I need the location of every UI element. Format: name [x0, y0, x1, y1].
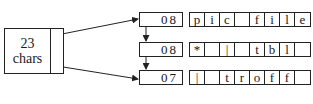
- char-cell: [295, 43, 310, 56]
- char-cell: p: [190, 13, 205, 26]
- char-cell: *: [190, 43, 205, 56]
- char-cell: i: [205, 13, 220, 26]
- char-cell: |: [220, 43, 235, 56]
- char-cell: [205, 43, 220, 56]
- char-cell: t: [250, 43, 265, 56]
- char-cell: [235, 43, 250, 56]
- string-header-box: 23 chars: [4, 28, 64, 74]
- char-cell: |: [190, 71, 205, 84]
- char-cell: o: [250, 71, 265, 84]
- char-cell: [295, 71, 310, 84]
- length-value: 23: [21, 36, 35, 51]
- char-cell: e: [295, 13, 310, 26]
- segment-count-3: 07: [139, 70, 183, 85]
- char-cell: c: [220, 13, 235, 26]
- char-cell: l: [280, 13, 295, 26]
- char-cell: f: [280, 71, 295, 84]
- segment-cells-1: p i c f i l e: [189, 12, 311, 27]
- char-cell: l: [280, 43, 295, 56]
- segment-count-1: 08: [139, 12, 183, 27]
- length-unit: chars: [13, 51, 43, 66]
- char-cell: t: [220, 71, 235, 84]
- char-cell: i: [265, 13, 280, 26]
- length-label: 23 chars: [5, 29, 50, 73]
- char-cell: r: [235, 71, 250, 84]
- char-cell: f: [265, 71, 280, 84]
- char-cell: [235, 13, 250, 26]
- char-cell: [205, 71, 220, 84]
- segment-count-2: 08: [139, 42, 183, 57]
- segment-cells-3: | t r o f f: [189, 70, 311, 85]
- segment-cells-2: * | t b l: [189, 42, 311, 57]
- char-cell: b: [265, 43, 280, 56]
- pointer-divider: [50, 29, 51, 73]
- char-cell: f: [250, 13, 265, 26]
